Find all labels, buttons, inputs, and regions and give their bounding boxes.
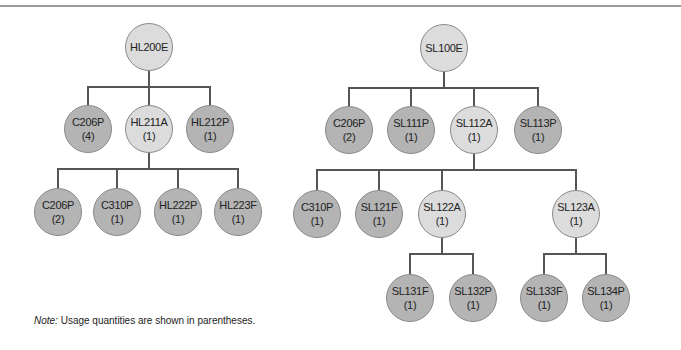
tree-node-sl100e: SL100E: [420, 24, 468, 72]
tree-node-c206p_c: C206P(2): [325, 106, 373, 154]
tree-node-sl112a: SL112A(1): [450, 106, 498, 154]
tree-node-sl133f: SL133F(1): [520, 274, 568, 322]
note-text: Usage quantities are shown in parenthese…: [58, 315, 255, 326]
node-label: SL111P: [393, 116, 429, 130]
node-quantity: (1): [570, 214, 583, 228]
footnote: Note: Usage quantities are shown in pare…: [34, 315, 255, 326]
node-quantity: (1): [373, 214, 386, 228]
tree-node-c206p_a: C206P(4): [64, 105, 112, 153]
tree-node-hl200e: HL200E: [125, 23, 173, 71]
node-quantity: (1): [232, 212, 245, 226]
node-quantity: (1): [143, 129, 156, 143]
node-quantity: (1): [468, 130, 481, 144]
node-label: C310P: [301, 200, 333, 214]
node-label: SL122A: [423, 200, 460, 214]
tree-node-sl113p: SL113P(1): [514, 106, 562, 154]
node-quantity: (1): [311, 214, 324, 228]
tree-node-sl111p: SL111P(1): [387, 106, 435, 154]
tree-node-sl134p: SL134P(1): [582, 274, 630, 322]
node-quantity: (1): [532, 130, 545, 144]
tree-node-hl223f: HL223F(1): [214, 188, 262, 236]
node-label: C206P: [333, 116, 365, 130]
node-label: C206P: [42, 198, 74, 212]
tree-node-sl123a: SL123A(1): [552, 190, 600, 238]
node-quantity: (1): [405, 130, 418, 144]
connector-lines: [0, 0, 681, 350]
node-label: SL134P: [587, 284, 624, 298]
node-quantity: (2): [343, 130, 356, 144]
node-quantity: (1): [467, 298, 480, 312]
node-label: HL212P: [191, 115, 229, 129]
tree-node-sl121f: SL121F(1): [355, 190, 403, 238]
node-quantity: (4): [82, 129, 95, 143]
node-label: SL100E: [425, 41, 462, 55]
tree-node-sl122a: SL122A(1): [418, 190, 466, 238]
tree-node-c310p_a: C310P(1): [93, 188, 141, 236]
tree-node-c206p_b: C206P(2): [34, 188, 82, 236]
tree-node-c310p_b: C310P(1): [293, 190, 341, 238]
tree-node-hl211a: HL211A(1): [125, 105, 173, 153]
tree-node-sl132p: SL132P(1): [449, 274, 497, 322]
node-label: SL113P: [520, 116, 557, 130]
node-label: SL121F: [361, 200, 398, 214]
tree-node-hl212p: HL212P(1): [186, 105, 234, 153]
node-quantity: (1): [600, 298, 613, 312]
node-quantity: (1): [204, 129, 217, 143]
node-quantity: (2): [52, 212, 65, 226]
node-quantity: (1): [436, 214, 449, 228]
node-label: C206P: [72, 115, 104, 129]
node-label: HL223F: [219, 198, 256, 212]
node-quantity: (1): [404, 298, 417, 312]
node-label: SL123A: [557, 200, 594, 214]
node-label: HL211A: [130, 115, 167, 129]
node-label: SL133F: [526, 284, 563, 298]
node-label: SL112A: [456, 116, 493, 130]
tree-node-hl222p: HL222P(1): [154, 188, 202, 236]
node-label: SL132P: [454, 284, 491, 298]
note-label: Note:: [34, 315, 58, 326]
node-quantity: (1): [172, 212, 185, 226]
node-label: HL200E: [130, 40, 168, 54]
node-label: HL222P: [159, 198, 197, 212]
node-label: SL131F: [392, 284, 429, 298]
node-quantity: (1): [111, 212, 124, 226]
node-label: C310P: [101, 198, 133, 212]
node-quantity: (1): [538, 298, 551, 312]
tree-node-sl131f: SL131F(1): [386, 274, 434, 322]
